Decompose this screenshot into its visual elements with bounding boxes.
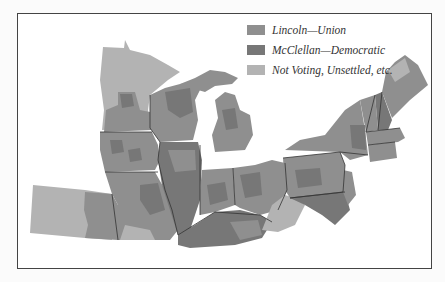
legend-item-mcclellan: McClellan—Democratic (247, 40, 393, 60)
swatch-not-voting (247, 65, 265, 75)
legend-label-lincoln: Lincoln—Union (272, 24, 346, 36)
swatch-mcclellan (247, 45, 265, 55)
region-connecticut (368, 142, 397, 162)
map-legend: Lincoln—Union McClellan—Democratic Not V… (247, 20, 393, 80)
swatch-lincoln (247, 25, 265, 35)
legend-item-not-voting: Not Voting, Unsettled, etc. (247, 60, 393, 80)
legend-item-lincoln: Lincoln—Union (247, 20, 393, 40)
legend-label-not-voting: Not Voting, Unsettled, etc. (272, 64, 393, 76)
legend-label-mcclellan: McClellan—Democratic (272, 44, 385, 56)
